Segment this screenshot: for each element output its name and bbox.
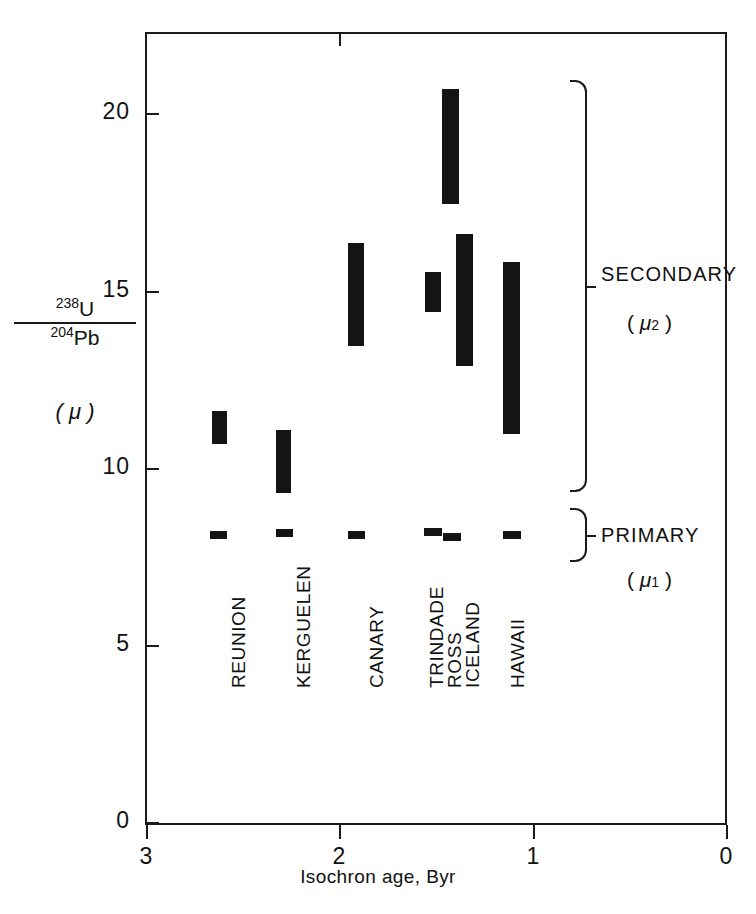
x-tick-3	[146, 825, 148, 839]
primary-bar-reunion	[210, 531, 227, 539]
category-label-hawaii: HAWAII	[507, 618, 529, 688]
y-axis-num-sup: 238	[56, 295, 79, 311]
y-tick-label-10: 10	[5, 453, 130, 480]
y-tick-label-20: 20	[5, 98, 130, 125]
secondary-bar-kerguelen	[276, 430, 291, 493]
plot-frame	[145, 32, 727, 825]
y-tick-0	[145, 822, 159, 824]
category-label-canary: CANARY	[366, 606, 388, 688]
primary-bar-hawaii	[503, 531, 521, 539]
primary-label: PRIMARY	[601, 524, 699, 547]
y-axis-symbol: ( μ )	[14, 399, 136, 425]
x-tick-1	[533, 825, 535, 839]
x-tick-2	[339, 825, 341, 839]
secondary-bar-ross	[442, 89, 459, 204]
secondary-bar-trindade	[425, 272, 441, 312]
y-tick-20	[145, 113, 159, 115]
secondary-bar-reunion	[212, 411, 227, 444]
primary-bracket	[570, 508, 587, 562]
category-label-iceland: ICELAND	[462, 601, 484, 688]
primary-bar-trindade	[424, 528, 442, 536]
y-axis-title: 238U 204Pb	[14, 296, 136, 349]
primary-bar-ross	[443, 533, 461, 541]
secondary-bar-canary	[348, 243, 364, 346]
y-tick-label-5: 5	[5, 630, 130, 657]
y-tick-label-0: 0	[5, 807, 130, 834]
secondary-bar-iceland	[456, 234, 473, 366]
y-axis-den-element: Pb	[74, 326, 100, 349]
category-label-kerguelen: KERGUELEN	[293, 565, 315, 688]
y-tick-5	[145, 645, 159, 647]
x-axis-title: Isochron age, Byr	[0, 866, 756, 888]
category-label-reunion: REUNION	[228, 596, 250, 688]
y-tick-10	[145, 468, 159, 470]
y-axis-num-element: U	[79, 297, 94, 320]
x-tick-0	[726, 825, 728, 839]
chart-figure: 20151050 238U 204Pb ( μ ) 3210 Isochron …	[0, 0, 756, 914]
primary-bar-kerguelen	[276, 529, 293, 537]
y-tick-15	[145, 291, 159, 293]
primary-symbol: ( μ1 )	[627, 568, 672, 592]
x-tick-top-2	[339, 32, 341, 46]
secondary-label: SECONDARY	[601, 263, 737, 286]
primary-bar-canary	[348, 531, 365, 539]
secondary-symbol: ( μ2 )	[627, 311, 672, 335]
secondary-bracket	[570, 80, 587, 492]
secondary-bar-hawaii	[503, 262, 520, 434]
y-axis-den-sup: 204	[50, 324, 73, 340]
